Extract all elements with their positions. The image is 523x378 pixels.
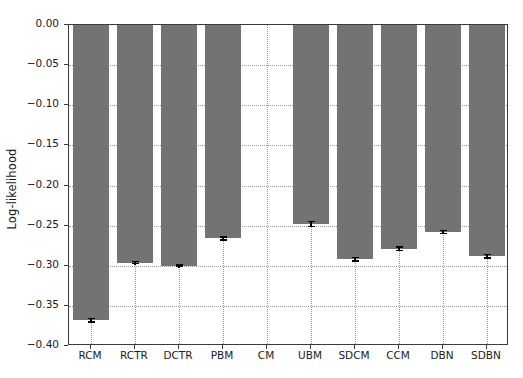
x-tick-label-rcm: RCM <box>78 349 101 361</box>
error-cap <box>484 257 491 259</box>
gridline-vertical <box>267 25 268 344</box>
bar-pbm[interactable] <box>205 25 241 238</box>
bar-chart-figure: Log-likelihood 0.00−0.05−0.10−0.15−0.20−… <box>0 0 523 378</box>
error-cap <box>396 250 403 252</box>
error-cap <box>176 266 183 268</box>
x-tick-label-dbn: DBN <box>430 349 453 361</box>
error-cap <box>308 226 315 228</box>
error-cap <box>88 318 95 320</box>
bar-sdcm[interactable] <box>337 25 373 259</box>
y-tick-label: −0.25 <box>0 218 59 230</box>
x-tick-label-cm: CM <box>258 349 274 361</box>
y-tick-label: −0.35 <box>0 298 59 310</box>
x-tick-label-sdcm: SDCM <box>338 349 369 361</box>
x-tick-label-rctr: RCTR <box>120 349 148 361</box>
y-tick-label: −0.05 <box>0 57 59 69</box>
bar-rctr[interactable] <box>117 25 153 263</box>
error-cap <box>352 257 359 259</box>
x-tick-label-dctr: DCTR <box>163 349 192 361</box>
y-tick-label: −0.20 <box>0 178 59 190</box>
error-cap <box>484 254 491 256</box>
error-cap <box>220 236 227 238</box>
plot-inner <box>69 25 507 344</box>
error-cap <box>396 246 403 248</box>
y-tick-label: −0.10 <box>0 97 59 109</box>
y-tick-label: −0.30 <box>0 258 59 270</box>
y-tick-mark <box>64 345 68 346</box>
bar-dbn[interactable] <box>425 25 461 232</box>
bar-dctr[interactable] <box>161 25 197 266</box>
x-tick-label-ccm: CCM <box>386 349 410 361</box>
error-cap <box>220 239 227 241</box>
x-tick-label-sdbn: SDBN <box>471 349 501 361</box>
y-tick-label: −0.40 <box>0 338 59 350</box>
error-cap <box>352 260 359 262</box>
x-tick-label-pbm: PBM <box>211 349 234 361</box>
bar-rcm[interactable] <box>73 25 109 320</box>
y-tick-label: −0.15 <box>0 137 59 149</box>
bar-sdbn[interactable] <box>469 25 505 256</box>
error-cap <box>440 230 447 232</box>
bar-ccm[interactable] <box>381 25 417 249</box>
error-cap <box>440 233 447 235</box>
error-cap <box>308 221 315 223</box>
bar-ubm[interactable] <box>293 25 329 224</box>
error-cap <box>132 263 139 265</box>
error-cap <box>88 321 95 323</box>
plot-area <box>68 24 508 345</box>
x-tick-label-ubm: UBM <box>298 349 322 361</box>
y-tick-label: 0.00 <box>0 17 59 29</box>
